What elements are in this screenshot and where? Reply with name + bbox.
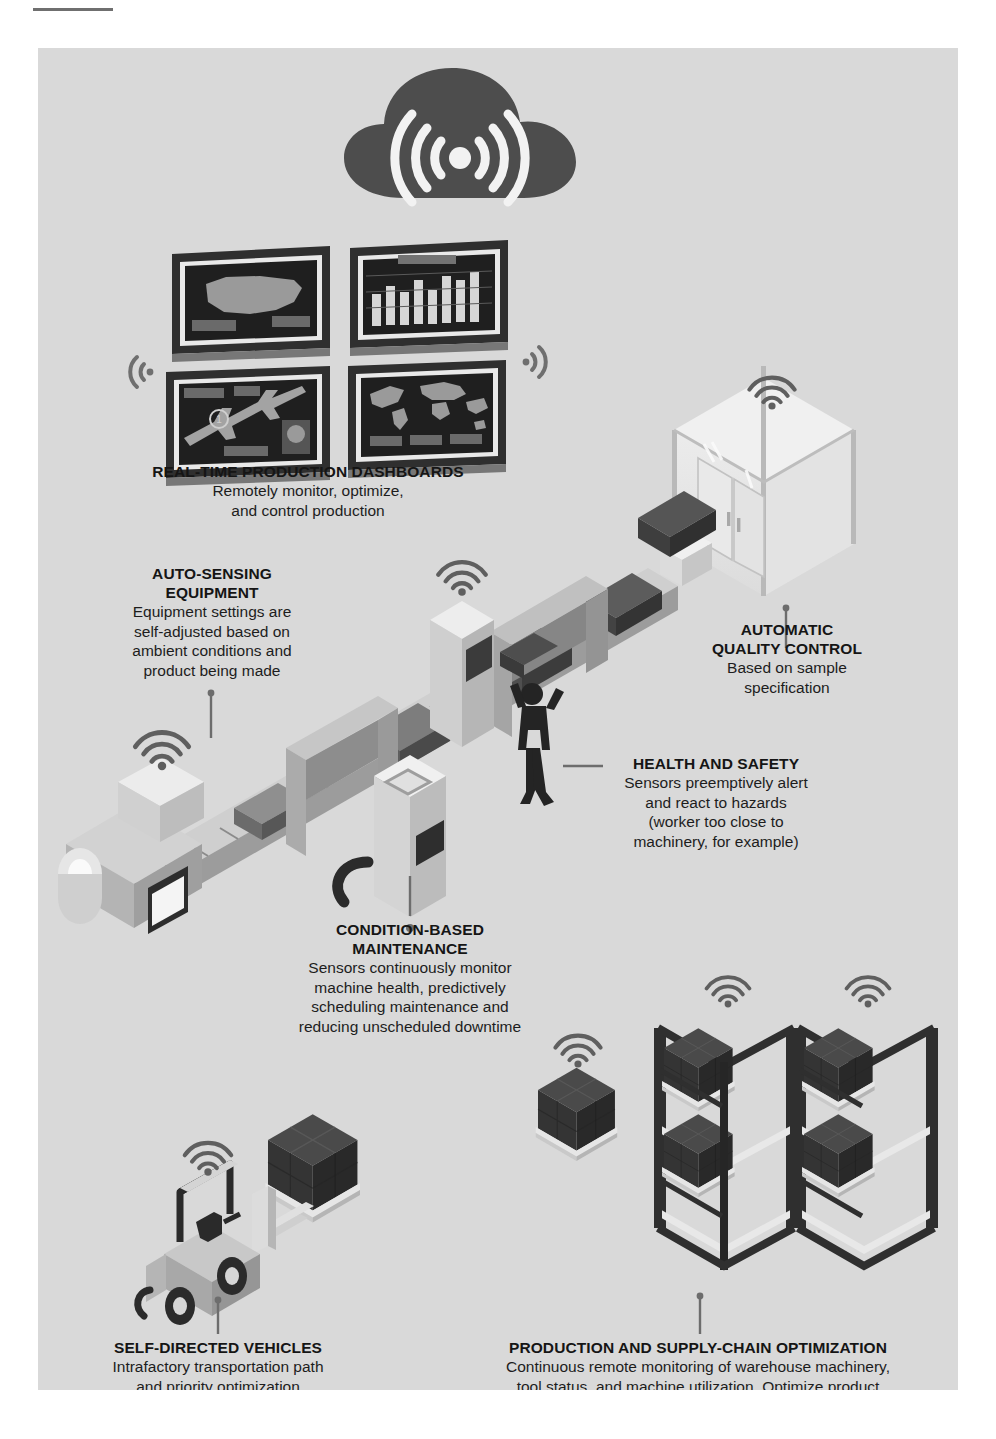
monitored-pallet bbox=[536, 1036, 617, 1161]
wifi-signal-up-icon bbox=[555, 1036, 600, 1068]
callout-line: tool status, and machine utilization. Op… bbox=[438, 1377, 958, 1391]
callout-line: Equipment settings are bbox=[73, 602, 351, 622]
page-top-rule bbox=[33, 8, 113, 11]
production-line bbox=[58, 491, 716, 934]
callout-line: (worker too close to bbox=[566, 812, 866, 832]
callout-line: machinery, for example) bbox=[566, 832, 866, 852]
cloud-wifi-icon bbox=[344, 68, 576, 202]
warehouse-racks bbox=[658, 977, 934, 1270]
wifi-signal-up-icon bbox=[135, 733, 188, 771]
wifi-signal-left-icon bbox=[130, 357, 153, 387]
wifi-signal-up-icon bbox=[707, 977, 750, 1007]
callout-line: Sensors preemptively alert bbox=[566, 773, 866, 793]
callout-line: product being made bbox=[73, 661, 351, 681]
callout-title-line: AUTO-SENSING bbox=[73, 564, 351, 583]
callout-title: PRODUCTION AND SUPPLY-CHAIN OPTIMIZATION bbox=[438, 1338, 958, 1357]
callout-real-time-production-dashboards: REAL-TIME PRODUCTION DASHBOARDS Remotely… bbox=[98, 462, 518, 520]
callout-title-line: MAINTENANCE bbox=[250, 939, 570, 958]
callout-title-line: CONDITION-BASED bbox=[250, 920, 570, 939]
callout-title-line: AUTOMATIC bbox=[658, 620, 916, 639]
dashboard-monitors: 1 bbox=[130, 240, 546, 486]
callout-condition-based-maintenance: CONDITION-BASED MAINTENANCE Sensors cont… bbox=[250, 920, 570, 1036]
callout-line: specification bbox=[658, 678, 916, 698]
callout-title: REAL-TIME PRODUCTION DASHBOARDS bbox=[98, 462, 518, 481]
callout-line: reducing unscheduled downtime bbox=[250, 1017, 570, 1037]
callout-line: and priority optimization bbox=[62, 1377, 374, 1391]
callout-line: and control production bbox=[98, 501, 518, 521]
callout-line: machine health, predictively bbox=[250, 978, 570, 998]
usa-map-screen bbox=[172, 246, 330, 362]
wifi-signal-up-icon bbox=[847, 977, 890, 1007]
callout-automatic-quality-control: AUTOMATIC QUALITY CONTROL Based on sampl… bbox=[658, 620, 916, 697]
sensor-kiosk-upper bbox=[430, 562, 494, 747]
forklift-vehicle bbox=[138, 1114, 360, 1325]
callout-line: Continuous remote monitoring of warehous… bbox=[438, 1357, 958, 1377]
callout-line: and react to hazards bbox=[566, 793, 866, 813]
callout-title: HEALTH AND SAFETY bbox=[566, 754, 866, 773]
svg-text:1: 1 bbox=[216, 414, 222, 425]
infographic-canvas: 1 bbox=[38, 48, 958, 1390]
callout-health-and-safety: HEALTH AND SAFETY Sensors preemptively a… bbox=[566, 754, 866, 851]
world-map-screen bbox=[348, 360, 506, 478]
callout-line: scheduling maintenance and bbox=[250, 997, 570, 1017]
illustration-layer: 1 bbox=[38, 48, 958, 1390]
callout-line: Remotely monitor, optimize, bbox=[98, 481, 518, 501]
callout-title-line: QUALITY CONTROL bbox=[658, 639, 916, 658]
callout-title: SELF-DIRECTED VEHICLES bbox=[62, 1338, 374, 1357]
callout-self-directed-vehicles: SELF-DIRECTED VEHICLES Intrafactory tran… bbox=[62, 1338, 374, 1390]
callout-line: Based on sample bbox=[658, 658, 916, 678]
bar-chart-screen bbox=[350, 240, 508, 356]
callout-auto-sensing-equipment: AUTO-SENSING EQUIPMENT Equipment setting… bbox=[73, 564, 351, 680]
wifi-signal-up-icon bbox=[438, 562, 486, 596]
callout-title-line: EQUIPMENT bbox=[73, 583, 351, 602]
callout-line: self-adjusted based on bbox=[73, 622, 351, 642]
callout-production-and-supply-chain-optimization: PRODUCTION AND SUPPLY-CHAIN OPTIMIZATION… bbox=[438, 1338, 958, 1390]
callout-line: ambient conditions and bbox=[73, 641, 351, 661]
worker-figure bbox=[510, 683, 564, 806]
auto-sensing-machine bbox=[58, 733, 204, 934]
wifi-signal-right-icon bbox=[523, 347, 546, 377]
callout-line: Intrafactory transportation path bbox=[62, 1357, 374, 1377]
callout-line: Sensors continuously monitor bbox=[250, 958, 570, 978]
